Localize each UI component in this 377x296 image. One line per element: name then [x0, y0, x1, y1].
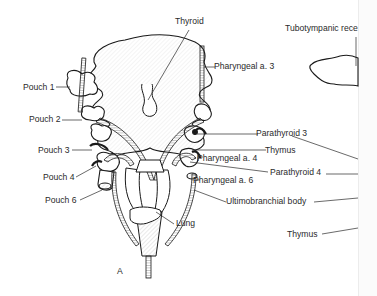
label-pouch-1: Pouch 1 — [23, 83, 55, 92]
label-thymus-lower: Thymus — [287, 230, 318, 239]
label-pharyngeal-a4: Pharyngeal a. 4 — [197, 154, 257, 163]
label-ultimobranchial-body: Ultimobranchial body — [226, 197, 306, 206]
label-thymus-upper: Thymus — [265, 146, 296, 155]
label-parathyroid-4: Parathyroid 4 — [270, 168, 321, 177]
label-pouch-2: Pouch 2 — [29, 115, 61, 124]
label-pouch-4: Pouch 4 — [43, 173, 75, 182]
label-pouch-3: Pouch 3 — [38, 146, 70, 155]
label-thyroid: Thyroid — [175, 17, 204, 26]
label-pharyngeal-a3: Pharyngeal a. 3 — [214, 62, 274, 71]
tubotympanic-recess-shape — [310, 55, 358, 86]
label-parathyroid-3: Parathyroid 3 — [256, 129, 307, 138]
label-tubotympanic-recess: Tubotympanic rece — [285, 24, 358, 33]
panel-letter: A — [117, 267, 123, 276]
label-pharyngeal-a6: Pharyngeal a. 6 — [193, 176, 253, 185]
label-pouch-6: Pouch 6 — [45, 196, 77, 205]
label-lung: Lung — [176, 219, 195, 228]
